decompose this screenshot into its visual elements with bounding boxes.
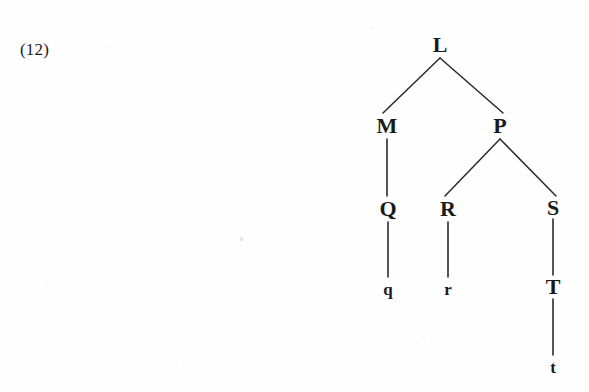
tree-node-q: q bbox=[383, 281, 392, 298]
tree-node-r: r bbox=[444, 281, 452, 298]
tree-edge-l-p bbox=[440, 58, 503, 113]
paper-texture bbox=[0, 0, 589, 392]
tree-branch-layer bbox=[0, 0, 589, 392]
tree-node-M: M bbox=[377, 115, 398, 137]
example-number-label: (12) bbox=[20, 40, 49, 60]
tree-edge-l-m bbox=[383, 58, 440, 113]
tree-node-L: L bbox=[433, 34, 448, 56]
tree-node-S: S bbox=[547, 197, 559, 219]
tree-node-R: R bbox=[440, 198, 456, 220]
tree-node-t: t bbox=[550, 359, 556, 376]
tree-node-Q: Q bbox=[379, 198, 396, 220]
tree-node-T: T bbox=[546, 276, 561, 298]
tree-node-P: P bbox=[493, 115, 506, 137]
tree-edge-p-r bbox=[445, 139, 500, 196]
tree-edge-p-s bbox=[500, 139, 556, 196]
scanned-page: (12) LMPQRSTqrt bbox=[0, 0, 589, 392]
